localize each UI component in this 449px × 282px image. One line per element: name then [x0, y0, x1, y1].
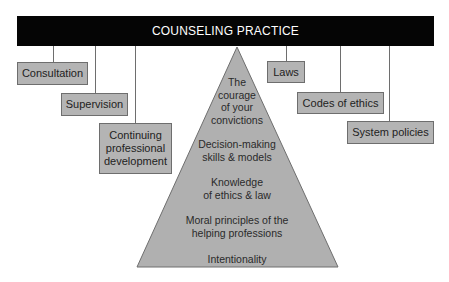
pyramid-level-moral-principles: Moral principles of the helping professi… [167, 214, 307, 239]
consultation-box: Consultation [17, 62, 88, 85]
pyramid-level-courage: The courage of your convictions [197, 76, 277, 126]
pyramid-level-knowledge: Knowledge of ethics & law [177, 176, 297, 201]
pyramid-level-decision-making: Decision-making skills & models [177, 138, 297, 163]
supervision-box: Supervision [61, 93, 128, 116]
codes-of-ethics-label: Codes of ethics [303, 97, 379, 110]
pyramid-level-intentionality: Intentionality [177, 253, 297, 266]
continuing-development-label: Continuing professional development [104, 129, 167, 168]
consultation-label: Consultation [22, 67, 83, 80]
system-policies-label: System policies [352, 126, 428, 139]
supervision-label: Supervision [66, 98, 123, 111]
continuing-development-box: Continuing professional development [99, 123, 172, 174]
system-policies-box: System policies [347, 121, 434, 144]
laws-label: Laws [273, 66, 299, 79]
codes-of-ethics-box: Codes of ethics [297, 92, 384, 114]
